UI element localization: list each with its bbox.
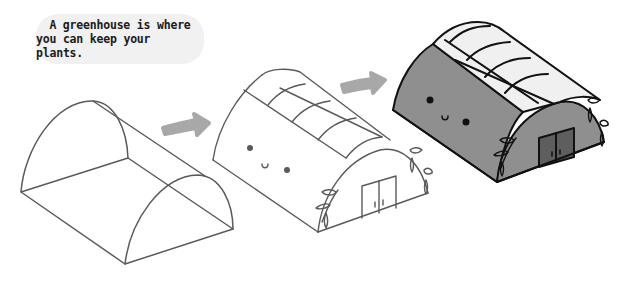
arrow-right-icon bbox=[342, 73, 385, 93]
step-2-face-eyes bbox=[247, 145, 290, 173]
step-3-final-drawing bbox=[393, 22, 608, 182]
arrow-right-icon bbox=[163, 114, 209, 135]
